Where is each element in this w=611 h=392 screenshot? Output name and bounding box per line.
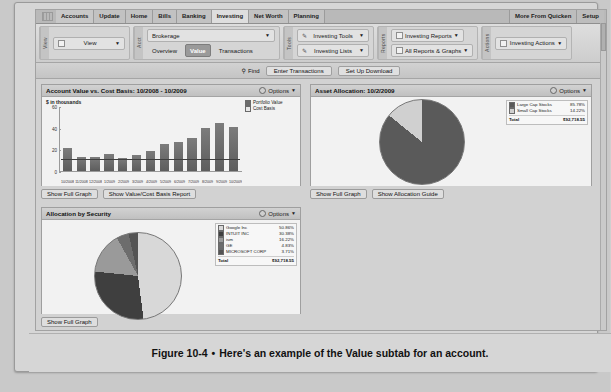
- ribbon-group-account-label: Acct: [134, 27, 143, 59]
- show-allocation-guide-button[interactable]: Show Allocation Guide: [372, 189, 444, 199]
- investing-tools-dropdown[interactable]: ✎ Investing Tools ▼: [297, 29, 369, 42]
- ribbon-group-reports-label: Reports: [378, 27, 387, 59]
- bar-slot: [75, 107, 88, 171]
- ribbon-group-view: View View ▼: [39, 26, 130, 60]
- x-axis-tick-label: 1/2009: [103, 180, 116, 184]
- show-full-graph-button[interactable]: Show Full Graph: [41, 189, 98, 199]
- bar-slot: [89, 107, 102, 171]
- bar[interactable]: [118, 158, 127, 171]
- allocation-by-security-legend: Google Inc 50.86% INTUIT INC 30.38% ism: [215, 223, 297, 266]
- show-value-cost-basis-report-button[interactable]: Show Value/Cost Basis Report: [103, 189, 197, 199]
- setup-link[interactable]: Setup: [576, 10, 604, 23]
- investing-lists-dropdown[interactable]: ✎ Investing Lists ▼: [297, 44, 369, 57]
- more-from-quicken-link[interactable]: More From Quicken: [509, 10, 576, 23]
- panel-options-label: Options: [559, 88, 580, 94]
- scrollbar-thumb[interactable]: [601, 23, 606, 51]
- report-icon: [396, 32, 403, 39]
- account-selector-label: Brokerage: [152, 33, 180, 39]
- all-reports-graphs-dropdown[interactable]: All Reports & Graphs ▼: [391, 44, 473, 57]
- account-selector-dropdown[interactable]: Brokerage ▼: [147, 29, 275, 42]
- legend-total-row: Total $92,718.55: [218, 256, 294, 264]
- legend-value: 3.71%: [282, 249, 294, 255]
- x-axis-tick-label: 9/2009: [215, 180, 228, 184]
- view-dropdown[interactable]: View ▼: [53, 37, 125, 50]
- set-up-download-button[interactable]: Set Up Download: [338, 66, 401, 76]
- ribbon-toolbar: View View ▼ Acct: [36, 24, 606, 63]
- chevron-down-icon: ▼: [557, 41, 562, 46]
- bar[interactable]: [215, 123, 224, 171]
- bar-chart-plot-area: 0204060: [59, 107, 242, 172]
- main-tab-planning[interactable]: Planning: [289, 10, 325, 23]
- ribbon-group-tools: Tools ✎ Investing Tools ▼ ✎: [283, 26, 374, 60]
- chevron-down-icon: ▼: [454, 33, 459, 38]
- main-tab-strip: Accounts Update Home Bills Banking Inves…: [36, 10, 606, 24]
- show-full-graph-button[interactable]: Show Full Graph: [41, 317, 98, 327]
- x-axis-tick-label: 12/2008: [89, 180, 102, 184]
- subtab-transactions[interactable]: Transactions: [214, 44, 258, 57]
- bar[interactable]: [229, 127, 238, 171]
- main-tab-accounts[interactable]: Accounts: [56, 10, 94, 23]
- x-axis-tick-label: 8/2009: [201, 180, 214, 184]
- actions-icon: [500, 40, 507, 47]
- chevron-down-icon: ▼: [291, 211, 296, 216]
- chevron-down-icon: ▼: [582, 88, 587, 93]
- window-vertical-scrollbar[interactable]: [600, 23, 606, 330]
- panel-title: Allocation by Security: [46, 210, 111, 217]
- main-tab-update[interactable]: Update: [94, 10, 125, 23]
- investing-reports-label: Investing Reports: [405, 33, 452, 39]
- x-axis-tick-label: 10/2009: [229, 180, 242, 184]
- pencil-icon: ✎: [302, 47, 307, 54]
- panel-options-label: Options: [268, 211, 289, 217]
- panel-body: $ in thousands Portfolio Value Cost Basi…: [42, 97, 300, 186]
- enter-transactions-button[interactable]: Enter Transactions: [266, 66, 332, 76]
- bar[interactable]: [160, 144, 169, 171]
- ribbon-group-reports: Reports Investing Reports ▼: [377, 26, 478, 60]
- figure-caption: Figure 10-4 • Here's an example of the V…: [29, 333, 611, 372]
- bar[interactable]: [132, 155, 141, 171]
- view-checkbox-icon: [58, 40, 65, 47]
- legend-total-label: Total: [218, 258, 272, 264]
- y-axis-tick-label: 40: [47, 127, 57, 132]
- bar-series-portfolio-value: [61, 107, 240, 171]
- allocation-by-security-pie-chart[interactable]: [94, 232, 182, 320]
- panel-account-value-vs-cost-basis: Account Value vs. Cost Basis: 10/2008 - …: [41, 84, 301, 186]
- panel-options-button[interactable]: Options ▼: [550, 87, 587, 94]
- drag-grip-icon[interactable]: [42, 12, 53, 21]
- x-axis: [59, 171, 242, 172]
- asset-allocation-pie-chart[interactable]: [379, 99, 465, 185]
- bar[interactable]: [104, 154, 113, 171]
- chevron-down-icon: ▼: [359, 33, 364, 38]
- main-tab-net-worth[interactable]: Net Worth: [249, 10, 289, 23]
- panel-header: Asset Allocation: 10/2/2009 Options ▼: [311, 85, 591, 97]
- investing-reports-dropdown[interactable]: Investing Reports ▼: [391, 29, 464, 42]
- panel-options-button[interactable]: Options ▼: [259, 210, 296, 217]
- main-tab-bills[interactable]: Bills: [153, 10, 177, 23]
- main-tab-home[interactable]: Home: [126, 10, 154, 23]
- gear-icon: [259, 210, 266, 217]
- bar-slot: [199, 107, 212, 171]
- panel-options-label: Options: [268, 88, 289, 94]
- subtab-value[interactable]: Value: [185, 44, 211, 57]
- bar-slot: [172, 107, 185, 171]
- secondary-toolbar: ⚲ Find Enter Transactions Set Up Downloa…: [36, 63, 606, 79]
- panel-options-button[interactable]: Options ▼: [259, 87, 296, 94]
- gear-icon: [550, 87, 557, 94]
- bar[interactable]: [187, 138, 196, 171]
- ribbon-group-actions-label: Actions: [482, 27, 491, 59]
- main-tab-banking[interactable]: Banking: [177, 10, 212, 23]
- bar[interactable]: [146, 151, 155, 171]
- main-tab-investing[interactable]: Investing: [212, 10, 249, 23]
- x-axis-tick-label: 5/2009: [159, 180, 172, 184]
- find-button[interactable]: ⚲ Find: [242, 67, 260, 74]
- bar[interactable]: [201, 128, 210, 171]
- bar-slot: [116, 107, 129, 171]
- figure-number: Figure 10-4: [152, 347, 208, 359]
- bar-chart-legend: Portfolio Value Cost Basis: [245, 100, 297, 112]
- bar[interactable]: [174, 142, 183, 171]
- show-full-graph-button[interactable]: Show Full Graph: [310, 189, 367, 199]
- x-axis-tick-label: 4/2009: [145, 180, 158, 184]
- subtab-overview[interactable]: Overview: [147, 44, 182, 57]
- x-axis-tick-labels: 10/200811/200812/20081/20092/20093/20094…: [61, 180, 242, 184]
- dashboard-area: Account Value vs. Cost Basis: 10/2008 - …: [36, 79, 606, 331]
- investing-actions-dropdown[interactable]: Investing Actions ▼: [495, 37, 567, 50]
